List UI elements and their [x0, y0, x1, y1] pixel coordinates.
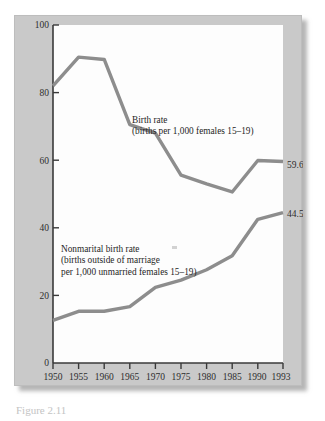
y-tick-label-100: 100: [35, 20, 50, 30]
annotation-nonmarital-line3: per 1,000 unmarried females 15–19): [61, 267, 197, 278]
x-tick-label-1980: 1980: [197, 372, 216, 382]
x-tick-label-1955: 1955: [69, 372, 88, 382]
annotation-birth-rate: Birth rate (births per 1,000 females 15–…: [132, 115, 254, 138]
figure-caption: Figure 2.11: [16, 404, 66, 416]
value-label-nonmarital: 44.5: [287, 209, 303, 219]
x-tick-label-1990: 1990: [248, 372, 267, 382]
x-tick-marks: [53, 363, 283, 369]
y-tick-label-80: 80: [40, 88, 50, 98]
y-tick-label-0: 0: [44, 358, 49, 368]
line-chart: 100 80 60 40 20 0 1950 1955 1960 1965 19…: [15, 16, 303, 387]
y-tick-label-20: 20: [40, 291, 50, 301]
x-tick-label-1970: 1970: [146, 372, 165, 382]
y-tick-marks: [53, 25, 59, 295]
x-tick-label-1950: 1950: [44, 372, 63, 382]
x-tick-label-1985: 1985: [223, 372, 242, 382]
y-tick-label-40: 40: [40, 223, 50, 233]
x-tick-label-1993: 1993: [272, 372, 291, 382]
value-label-birth-rate: 59.6: [287, 160, 303, 170]
annotation-birth-rate-line1: Birth rate: [132, 115, 254, 126]
annotation-nonmarital: Nonmarital birth rate (births outside of…: [61, 244, 197, 278]
x-tick-label-1975: 1975: [172, 372, 191, 382]
x-tick-label-1965: 1965: [120, 372, 139, 382]
scan-speck-mark: [172, 246, 177, 249]
annotation-birth-rate-line2: (births per 1,000 females 15–19): [132, 126, 254, 137]
x-tick-label-1960: 1960: [95, 372, 114, 382]
figure-panel: 100 80 60 40 20 0 1950 1955 1960 1965 19…: [14, 15, 302, 386]
annotation-nonmarital-line2: (births outside of marriage: [61, 255, 197, 266]
y-tick-label-60: 60: [40, 156, 50, 166]
